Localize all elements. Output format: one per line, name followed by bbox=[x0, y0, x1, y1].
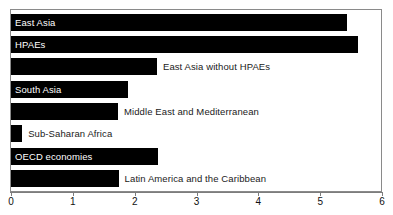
plot-area-frame bbox=[10, 9, 382, 192]
x-tick-label: 1 bbox=[70, 196, 76, 207]
x-tick-label: 0 bbox=[8, 196, 14, 207]
x-tick-label: 5 bbox=[317, 196, 323, 207]
x-tick-label: 6 bbox=[379, 196, 385, 207]
x-tick-label: 4 bbox=[256, 196, 262, 207]
x-tick-label: 3 bbox=[194, 196, 200, 207]
bar-chart: East AsiaHPAEsEast Asia without HPAEsSou… bbox=[0, 0, 393, 215]
x-tick-label: 2 bbox=[132, 196, 138, 207]
